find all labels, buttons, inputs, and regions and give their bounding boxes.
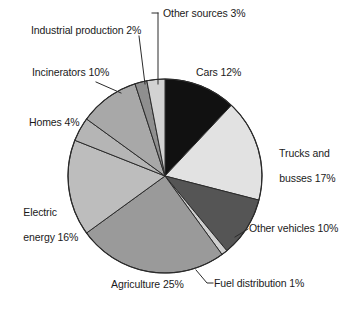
leader-line-other-sources [152, 13, 158, 84]
pie-label-industrial-production: Industrial production 2% [31, 24, 141, 37]
pie-label-other-sources: Other sources 3% [163, 7, 245, 20]
pie-label-trucks-and-busses-line2: busses 17% [279, 172, 335, 184]
pie-slice-group [68, 79, 262, 273]
leader-line-industrial-production [139, 36, 145, 84]
pie-label-homes: Homes 4% [29, 116, 80, 129]
pie-label-incinerators: Incinerators 10% [32, 66, 109, 79]
pie-label-trucks-and-busses: Trucks and busses 17% [268, 134, 335, 197]
pie-chart-figure: Other sources 3% Industrial production 2… [0, 0, 343, 310]
pie-label-electric-energy-line2: energy 16% [23, 231, 78, 243]
pie-label-other-vehicles: Other vehicles 10% [249, 222, 338, 235]
pie-label-electric-energy-line1: Electric [23, 206, 57, 218]
pie-label-fuel-distribution: Fuel distribution 1% [214, 277, 304, 290]
pie-label-trucks-and-busses-line1: Trucks and [279, 147, 330, 159]
pie-label-agriculture: Agriculture 25% [111, 278, 184, 291]
leader-line-fuel-distribution [196, 270, 213, 283]
leader-line-incinerators [96, 82, 121, 93]
pie-label-cars: Cars 12% [196, 66, 241, 79]
pie-label-electric-energy: Electric energy 16% [12, 193, 78, 256]
